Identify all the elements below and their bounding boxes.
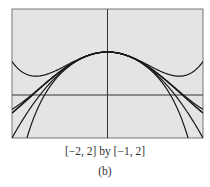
graph-window (0, 0, 210, 142)
figure-label: (b) (0, 165, 210, 177)
window-range-caption: [−2, 2] by [−1, 2] (0, 145, 210, 157)
